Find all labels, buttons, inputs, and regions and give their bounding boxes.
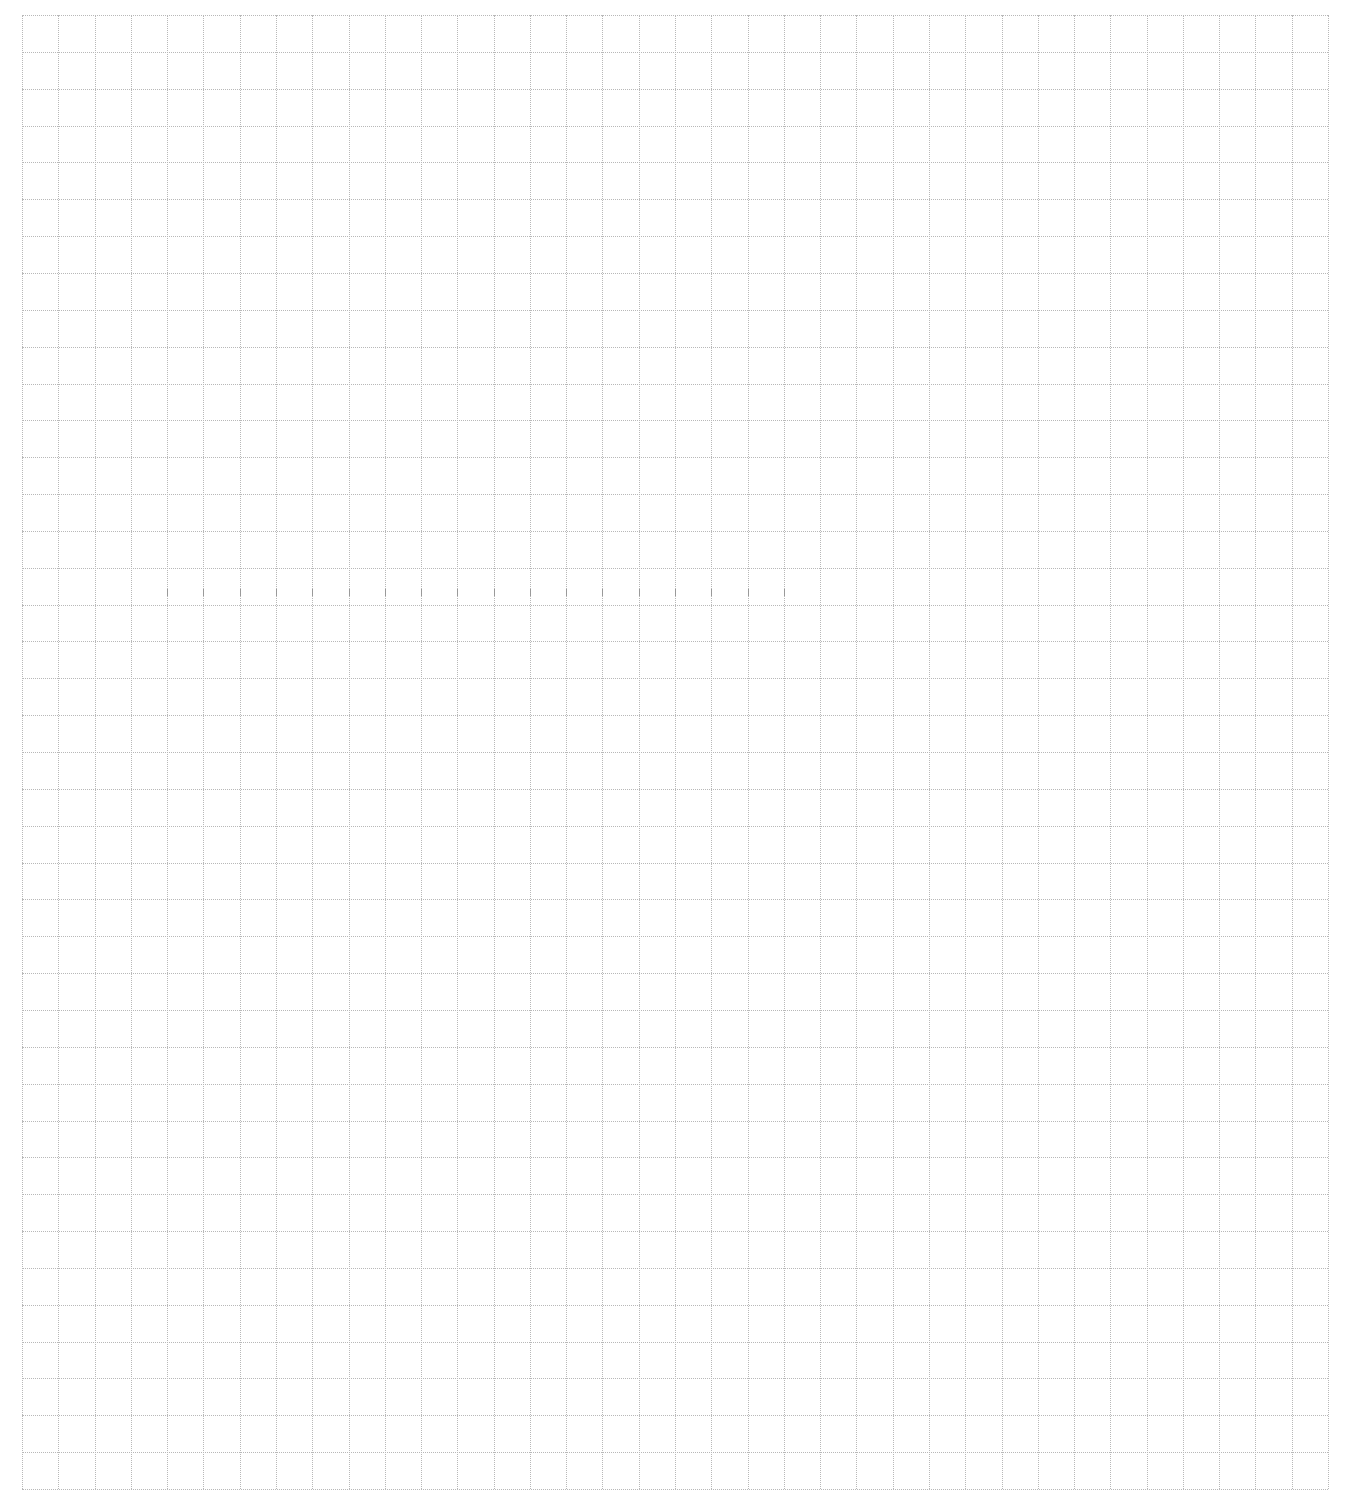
grid-vertical-line [856,15,857,1489]
tick-mark [602,589,603,596]
tick-mark [639,589,640,596]
grid-vertical-line [1183,15,1184,1489]
grid-vertical-line [203,15,204,1489]
grid-vertical-line [1110,15,1111,1489]
tick-mark [566,589,567,596]
grid-vertical-line [22,15,23,1489]
grid-vertical-line [95,15,96,1489]
tick-mark [711,589,712,596]
grid-vertical-line [312,15,313,1489]
tick-mark [240,589,241,596]
grid-vertical-line [494,15,495,1489]
grid-vertical-line [349,15,350,1489]
tick-mark [494,589,495,596]
tick-mark [276,589,277,596]
grid-horizontal-line [22,1489,1328,1490]
grid-vertical-line [457,15,458,1489]
tick-mark [784,589,785,596]
tick-mark [312,589,313,596]
tick-mark [203,589,204,596]
tick-mark [167,589,168,596]
grid-vertical-line [530,15,531,1489]
grid-vertical-line [421,15,422,1489]
grid-vertical-line [167,15,168,1489]
tick-mark [530,589,531,596]
grid-vertical-line [675,15,676,1489]
grid-vertical-line [240,15,241,1489]
tick-mark [675,589,676,596]
grid-vertical-line [820,15,821,1489]
grid-vertical-line [748,15,749,1489]
grid-vertical-line [1002,15,1003,1489]
grid-vertical-line [276,15,277,1489]
grid-vertical-line [784,15,785,1489]
grid-vertical-line [566,15,567,1489]
grid-vertical-line [1255,15,1256,1489]
grid-vertical-line [929,15,930,1489]
tick-mark [748,589,749,596]
grid-vertical-line [1219,15,1220,1489]
grid-vertical-line [1147,15,1148,1489]
grid-vertical-line [1328,15,1329,1489]
grid-vertical-line [1038,15,1039,1489]
grid-vertical-line [131,15,132,1489]
grid-vertical-line [965,15,966,1489]
grid-vertical-line [602,15,603,1489]
grid-vertical-line [1292,15,1293,1489]
graph-paper-grid [22,15,1328,1489]
grid-vertical-line [1074,15,1075,1489]
grid-vertical-line [711,15,712,1489]
tick-mark [385,589,386,596]
tick-mark [457,589,458,596]
grid-vertical-line [58,15,59,1489]
tick-mark [421,589,422,596]
grid-vertical-line [385,15,386,1489]
grid-vertical-line [893,15,894,1489]
tick-mark [349,589,350,596]
grid-vertical-line [639,15,640,1489]
